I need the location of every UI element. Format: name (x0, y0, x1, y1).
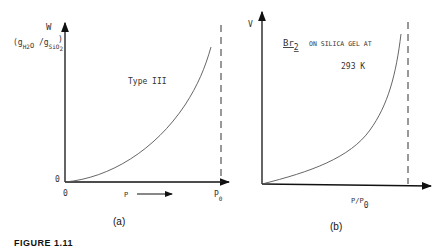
isotherm-curve-b (262, 34, 401, 184)
chart-title-b: Br2 ON SILICA GEL AT 293 K (283, 38, 372, 71)
x-axis-label-p-over-p0: P/P0 (351, 197, 369, 210)
panel-label-a: (a) (113, 216, 125, 227)
x-axis-end-label-p0: P0 (214, 190, 223, 202)
svg-text:): ) (58, 35, 63, 44)
x-origin-label: 0 (63, 189, 68, 198)
y-axis-units: (gH2O /gSiO2 ) (13, 35, 63, 52)
y-axis-label-v: V (248, 20, 253, 29)
panel-a: W (gH2O /gSiO2 ) Type III 0 0 P P0 (a) (13, 22, 229, 227)
y-origin-label: 0 (55, 175, 60, 184)
svg-text:ON SILICA GEL AT: ON SILICA GEL AT (309, 40, 372, 48)
isotherm-curve-a (65, 47, 211, 182)
figure-caption: FIGURE 1.11 (14, 238, 73, 248)
panel-b: V Br2 ON SILICA GEL AT 293 K P/P0 (b) (248, 12, 431, 232)
curve-label-type-iii: Type III (128, 77, 167, 86)
panel-label-b: (b) (330, 221, 342, 232)
y-axis-label-w: W (46, 22, 52, 32)
x-axis-b (262, 184, 431, 186)
svg-text:(gH2O /gSiO2: (gH2O /gSiO2 (13, 38, 63, 52)
x-axis-label-p: P (124, 191, 128, 199)
temperature-label: 293 K (341, 62, 365, 71)
svg-text:Br2: Br2 (283, 38, 299, 52)
